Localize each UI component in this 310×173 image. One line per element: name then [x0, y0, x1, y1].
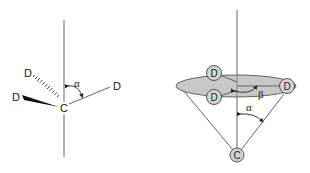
- svg-text:D: D: [283, 81, 290, 92]
- alpha-angle-arc-right: [239, 114, 262, 121]
- beta-label: β: [258, 88, 264, 100]
- left-carbon-label: C: [60, 102, 68, 114]
- left-d-left-label: D: [12, 91, 20, 103]
- plain-bond: [69, 87, 110, 104]
- atom-c-apex: C: [230, 148, 244, 162]
- svg-text:D: D: [210, 68, 217, 79]
- diagram-canvas: C D D D α D D: [0, 0, 310, 173]
- left-d-right-label: D: [113, 80, 121, 92]
- atom-d-back: D: [207, 66, 222, 81]
- atom-d-right: D: [280, 79, 295, 94]
- atom-d-front: D: [207, 90, 222, 105]
- right-alpha-label: α: [246, 101, 252, 113]
- left-tetrahedral-diagram: C D D D α: [12, 20, 121, 157]
- svg-text:D: D: [210, 92, 217, 103]
- right-cone-diagram: D D D C β α: [176, 10, 296, 162]
- left-d-upper-label: D: [24, 67, 32, 79]
- solid-wedge-bond: [22, 95, 59, 107]
- hashed-wedge-bond: [33, 75, 59, 97]
- svg-text:C: C: [233, 150, 240, 161]
- left-alpha-label: α: [74, 77, 80, 89]
